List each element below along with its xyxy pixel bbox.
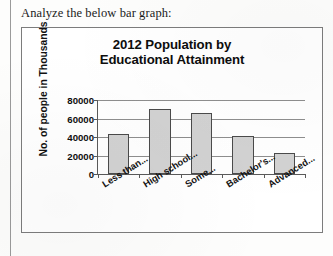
- chart-title: 2012 Population by Educational Attainmen…: [22, 37, 322, 67]
- document-page: Analyze the below bar graph: 2012 Popula…: [0, 0, 333, 256]
- y-tick-label: 0: [89, 169, 94, 180]
- x-tick-mark: [139, 174, 140, 178]
- page-margin-rule: [10, 0, 11, 256]
- x-tick-mark: [222, 174, 223, 178]
- x-tick-mark: [305, 174, 306, 178]
- y-axis-title: No. of people in Thousands: [38, 25, 49, 157]
- prompt-text: Analyze the below bar graph:: [21, 6, 172, 21]
- x-tick-mark: [181, 174, 182, 178]
- y-tick-label: 40000: [67, 132, 94, 143]
- y-tick-label: 80000: [67, 95, 94, 106]
- chart-container: 2012 Population by Educational Attainmen…: [21, 27, 323, 233]
- chart-title-line-2: Educational Attainment: [22, 52, 322, 67]
- x-tick-mark: [264, 174, 265, 178]
- y-tick-label: 20000: [67, 150, 94, 161]
- y-tick-label: 60000: [67, 113, 94, 124]
- x-tick-mark: [98, 174, 99, 178]
- chart-title-line-1: 2012 Population by: [113, 37, 231, 52]
